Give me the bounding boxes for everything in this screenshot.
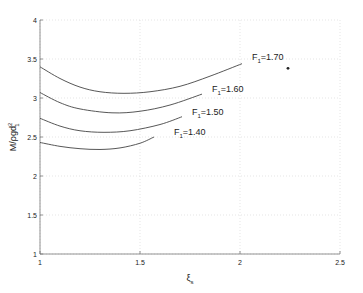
curve-label: F1=1.60	[212, 84, 244, 96]
y-tick-label: 1	[33, 251, 37, 258]
x-tick-label: 2.5	[335, 259, 345, 266]
x-tick-label: 1	[38, 259, 42, 266]
y-tick-label: 2.5	[27, 134, 37, 141]
data-point-dot	[287, 67, 290, 70]
x-tick-label: 1.5	[135, 259, 145, 266]
line-chart: 11.522.511.522.533.54 F1=1.70F1=1.60F1=1…	[0, 0, 363, 293]
curve-label: F1=1.40	[174, 127, 206, 139]
x-tick-label: 2	[238, 259, 242, 266]
curve-F1=1.40	[40, 137, 154, 150]
x-axis-label: ξs	[186, 273, 193, 285]
annotations	[287, 67, 290, 70]
y-tick-label: 3	[33, 95, 37, 102]
tick-labels: 11.522.511.522.533.54	[27, 17, 345, 267]
curve-F1=1.50	[40, 117, 182, 133]
y-axis-label: M/ρgd21	[7, 122, 20, 151]
curve-F1=1.60	[40, 93, 202, 113]
y-tick-label: 3.5	[27, 56, 37, 63]
y-tick-label: 2	[33, 173, 37, 180]
y-tick-label: 1.5	[27, 212, 37, 219]
curve-label: F1=1.70	[252, 52, 284, 64]
curve-label: F1=1.50	[192, 107, 224, 119]
y-tick-label: 4	[33, 17, 37, 24]
curve-labels: F1=1.70F1=1.60F1=1.50F1=1.40	[174, 52, 284, 140]
